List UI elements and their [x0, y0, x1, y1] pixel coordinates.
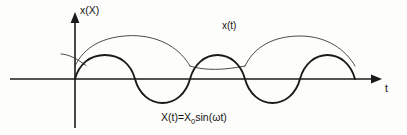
envelope-curve-label: x(t): [222, 21, 236, 31]
envelope-connector: [190, 66, 245, 69]
envelope-arc-1: [75, 36, 190, 66]
y-axis-arrowhead: [71, 12, 80, 23]
oscillation-figure: x(X) t x(t) X(t)=X0sin(ωt): [0, 0, 407, 135]
x-axis-arrowhead: [371, 75, 382, 84]
y-axis-label: x(X): [80, 5, 99, 16]
equation-prefix: X(t)=X: [161, 111, 191, 123]
equation-label: X(t)=X0sin(ωt): [161, 112, 227, 123]
equation-suffix: sin(ωt): [195, 111, 227, 123]
envelope-arc-2: [245, 36, 355, 66]
x-axis-label: t: [385, 83, 388, 94]
